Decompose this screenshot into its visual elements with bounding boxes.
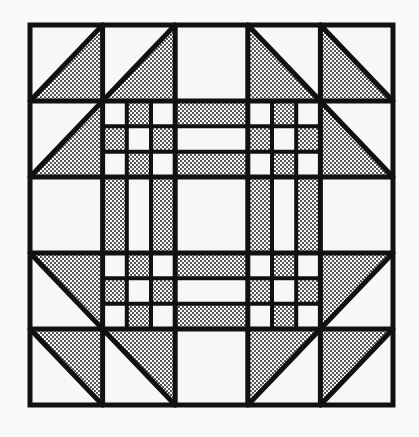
nine-patch-shaded-square bbox=[296, 126, 320, 151]
shaded-strip bbox=[296, 177, 320, 253]
nine-patch-shaded-square bbox=[272, 152, 296, 177]
nine-patch-shaded-square bbox=[127, 101, 151, 126]
nine-patch-shaded-square bbox=[272, 304, 296, 329]
nine-patch-shaded-square bbox=[103, 278, 127, 303]
nine-patch-shaded-square bbox=[248, 278, 272, 303]
nine-patch-shaded-square bbox=[127, 152, 151, 177]
shaded-strip bbox=[248, 177, 272, 253]
nine-patch-shaded-square bbox=[151, 126, 175, 151]
shaded-strip bbox=[175, 304, 248, 329]
nine-patch-shaded-square bbox=[272, 101, 296, 126]
quilt-cells bbox=[30, 25, 393, 405]
shaded-strip bbox=[175, 253, 248, 278]
nine-patch-shaded-square bbox=[296, 278, 320, 303]
quilt-block-diagram bbox=[0, 0, 419, 437]
shaded-strip bbox=[151, 177, 175, 253]
shaded-strip bbox=[103, 177, 127, 253]
nine-patch-shaded-square bbox=[248, 126, 272, 151]
nine-patch-shaded-square bbox=[127, 253, 151, 278]
shaded-strip bbox=[175, 101, 248, 126]
nine-patch-shaded-square bbox=[151, 278, 175, 303]
nine-patch-shaded-square bbox=[127, 304, 151, 329]
nine-patch-shaded-square bbox=[272, 253, 296, 278]
nine-patch-shaded-square bbox=[103, 126, 127, 151]
shaded-strip bbox=[175, 152, 248, 177]
